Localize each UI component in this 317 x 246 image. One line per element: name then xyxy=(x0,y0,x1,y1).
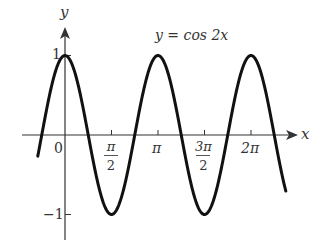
frac-numerator: π xyxy=(107,140,116,153)
x-tick-label-pi: π xyxy=(152,141,161,155)
frac-denominator: 2 xyxy=(199,159,207,172)
y-axis-label: y xyxy=(60,5,68,20)
frac-numerator: 3π xyxy=(195,140,212,153)
frac-denominator: 2 xyxy=(107,159,115,172)
cos-2x-graph: y x y = cos 2x 1 −1 0 π 2 π 3π 2 2π xyxy=(0,0,317,246)
frac-bar xyxy=(104,155,118,156)
x-tick-label-2pi: 2π xyxy=(241,141,259,155)
y-tick-label-neg1: −1 xyxy=(43,207,64,221)
x-axis-label: x xyxy=(301,127,309,142)
x-tick-label-3pi-half: 3π 2 xyxy=(195,140,212,172)
y-tick-label-1: 1 xyxy=(52,47,61,61)
x-tick-label-0: 0 xyxy=(54,141,63,155)
equation-label: y = cos 2x xyxy=(155,28,228,42)
x-tick-label-pi-half: π 2 xyxy=(104,140,118,172)
equation-text: y = cos 2x xyxy=(155,27,228,43)
frac-bar xyxy=(196,155,210,156)
